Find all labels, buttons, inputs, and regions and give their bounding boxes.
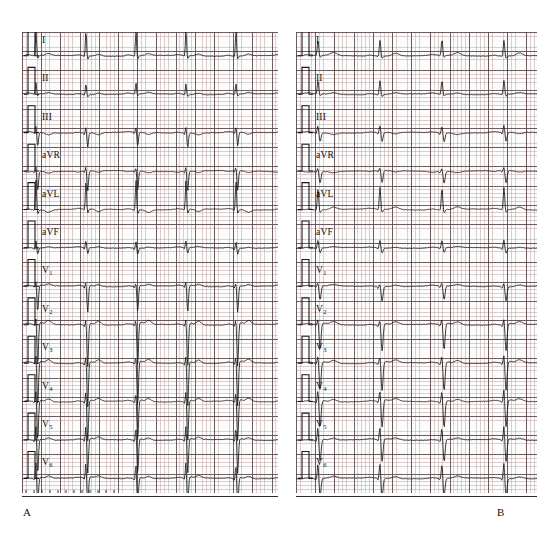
ecg-trace-avr <box>296 168 537 183</box>
calibration-pulse <box>298 67 313 94</box>
lead-label-avl: aVL <box>42 190 59 200</box>
ecg-trace-v1 <box>22 282 278 312</box>
ecg-trace-avr <box>22 167 278 191</box>
lead-label-v1: V1 <box>316 266 327 276</box>
calibration-pulse <box>24 106 39 133</box>
ecg-trace-i <box>296 40 537 58</box>
lead-label-avf: aVF <box>42 228 59 238</box>
ecg-trace-ii <box>296 80 537 96</box>
calibration-pulse <box>298 106 313 133</box>
calibration-pulse <box>298 336 313 363</box>
panel-letter-b: B <box>497 506 504 518</box>
lead-label-subscript: 6 <box>323 461 326 468</box>
calibration-pulse <box>298 183 313 210</box>
ecg-baseline-a <box>22 496 278 497</box>
ecg-trace-v5 <box>296 427 537 462</box>
ecg-trace-iii <box>296 125 537 141</box>
lead-label-ii: II <box>316 74 323 84</box>
ecg-trace-v2 <box>296 320 537 351</box>
calibration-pulse <box>298 413 313 440</box>
calibration-pulse <box>298 375 313 402</box>
lead-label-i: I <box>316 36 319 46</box>
ecg-trace-v1 <box>296 283 537 301</box>
lead-label-v3: V3 <box>42 343 53 353</box>
calibration-pulse <box>298 259 313 286</box>
ecg-trace-v6 <box>296 464 537 494</box>
ecg-trace-i <box>22 32 278 59</box>
lead-label-v1: V1 <box>42 266 53 276</box>
lead-label-v2: V2 <box>42 305 53 315</box>
lead-label-i: I <box>42 36 45 46</box>
ecg-figure: IIIIIIaVRaVLaVFV1V2V3V4V5V6 A IIIIIIaVRa… <box>0 0 554 546</box>
ecg-trace-v4 <box>296 390 537 427</box>
lead-label-avr: aVR <box>316 151 334 161</box>
lead-label-subscript: 5 <box>323 423 326 430</box>
ecg-trace-avl <box>22 180 278 214</box>
ecg-trace-avf <box>296 240 537 253</box>
ecg-trace-avf <box>22 241 278 254</box>
lead-label-subscript: 6 <box>49 461 52 468</box>
calibration-pulse <box>298 452 313 479</box>
ecg-trace-v3 <box>296 356 537 391</box>
lead-label-iii: III <box>316 113 326 123</box>
ecg-bottom-ticks-a <box>24 489 134 493</box>
lead-label-v5: V5 <box>42 420 53 430</box>
calibration-pulse <box>298 144 313 171</box>
lead-label-avf: aVF <box>316 228 333 238</box>
lead-label-v2: V2 <box>316 305 327 315</box>
calibration-pulse <box>24 144 39 171</box>
ecg-panel-a: IIIIIIaVRaVLaVFV1V2V3V4V5V6 <box>22 32 278 493</box>
lead-label-v4: V4 <box>316 382 327 392</box>
lead-label-subscript: 2 <box>49 308 52 315</box>
lead-label-v4: V4 <box>42 382 53 392</box>
lead-label-subscript: 4 <box>323 385 326 392</box>
lead-label-subscript: 1 <box>49 269 52 276</box>
calibration-pulse <box>298 32 313 56</box>
lead-label-subscript: 5 <box>49 423 52 430</box>
lead-label-ii: II <box>42 74 49 84</box>
calibration-pulse <box>24 259 39 286</box>
lead-label-subscript: 1 <box>323 269 326 276</box>
lead-label-avl: aVL <box>316 190 333 200</box>
lead-label-subscript: 3 <box>323 346 326 353</box>
lead-label-v5: V5 <box>316 420 327 430</box>
lead-label-v6: V6 <box>42 458 53 468</box>
ecg-trace-v5 <box>22 427 278 474</box>
ecg-trace-layer-b <box>296 32 537 493</box>
lead-label-iii: III <box>42 113 52 123</box>
ecg-trace-iii <box>22 126 278 146</box>
lead-label-v6: V6 <box>316 458 327 468</box>
lead-label-subscript: 4 <box>49 385 52 392</box>
lead-label-subscript: 3 <box>49 346 52 353</box>
ecg-trace-ii <box>22 83 278 97</box>
lead-label-avr: aVR <box>42 151 60 161</box>
ecg-trace-layer-a <box>22 32 278 493</box>
ecg-trace-v2 <box>22 319 278 367</box>
lead-label-subscript: 2 <box>323 308 326 315</box>
ecg-baseline-b <box>296 496 537 497</box>
panel-letter-a: A <box>23 506 31 518</box>
ecg-trace-v4 <box>22 392 278 441</box>
calibration-pulse <box>298 298 313 325</box>
lead-label-v3: V3 <box>316 343 327 353</box>
ecg-panel-b: IIIIIIaVRaVLaVFV1V2V3V4V5V6 <box>296 32 537 493</box>
calibration-pulse <box>298 221 313 248</box>
